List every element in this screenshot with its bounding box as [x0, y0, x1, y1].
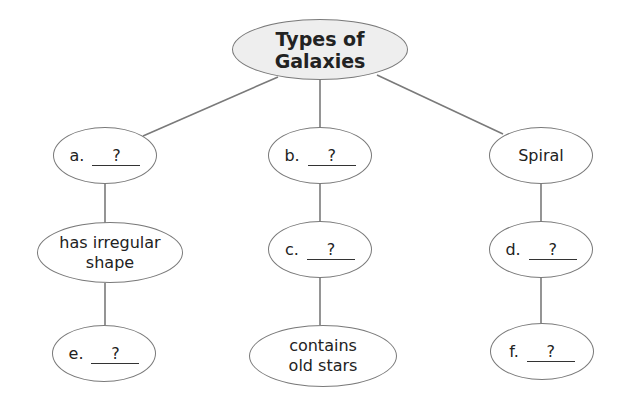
node-has-irregular-shape: has irregular shape	[37, 222, 183, 283]
node-e: e. ?	[52, 325, 156, 382]
node-f-answer-blank[interactable]: ?	[527, 343, 575, 362]
node-contains-old-stars: contains old stars	[249, 325, 397, 387]
node-contains-line2: old stars	[289, 356, 358, 376]
node-d-answer-blank[interactable]: ?	[529, 241, 577, 260]
root-title: Types of Galaxies	[233, 28, 407, 72]
node-f: f. ?	[490, 323, 594, 380]
node-spiral: Spiral	[489, 127, 593, 184]
link-root-a	[143, 77, 278, 136]
node-irregular-line2: shape	[86, 253, 134, 273]
node-f-letter: f.	[509, 342, 519, 361]
node-spiral-label: Spiral	[518, 146, 564, 166]
node-b: b. ?	[268, 127, 372, 184]
node-b-letter: b.	[284, 146, 299, 165]
node-e-letter: e.	[69, 344, 84, 363]
node-a-answer-blank[interactable]: ?	[92, 147, 140, 166]
node-c: c. ?	[268, 221, 372, 278]
node-d: d. ?	[489, 221, 593, 278]
root-node-types-of-galaxies: Types of Galaxies	[232, 19, 408, 80]
node-irregular-line1: has irregular	[59, 233, 160, 253]
node-b-answer-blank[interactable]: ?	[308, 147, 356, 166]
link-root-spiral	[377, 75, 503, 134]
node-a-letter: a.	[70, 146, 85, 165]
node-c-answer-blank[interactable]: ?	[307, 241, 355, 260]
node-a: a. ?	[53, 127, 157, 184]
node-e-answer-blank[interactable]: ?	[91, 345, 139, 364]
node-d-letter: d.	[505, 240, 520, 259]
node-contains-line1: contains	[289, 336, 357, 356]
node-c-letter: c.	[285, 240, 299, 259]
